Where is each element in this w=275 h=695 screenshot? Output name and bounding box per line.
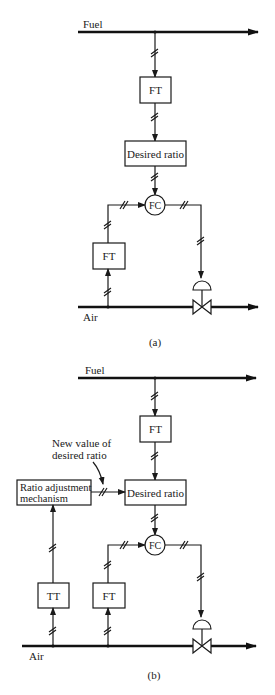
fuel-ft-label: FT [149,423,162,435]
fuel-ft-label: FT [149,84,162,96]
caption-b: (b) [148,669,161,682]
desired-ratio-label: Desired ratio [127,487,185,499]
signal-line [108,545,145,583]
air-tap-node [106,644,109,647]
annotation-line-1: New value of [52,437,112,449]
air-label: Air [29,650,44,662]
air-ft-label: FT [103,250,116,262]
fuel-label: Fuel [83,18,103,30]
ratio-adjustment-label-2: mechanism [20,493,68,504]
tt-label: TT [47,590,61,602]
annotation-pointer [93,462,103,484]
air-label: Air [83,311,98,323]
air-ft-label: FT [103,590,116,602]
annotation-line-2: desired ratio [52,449,107,461]
signal-line [165,545,201,617]
panel-a: Fuel FT Desired ratio FC FT [78,18,258,349]
control-valve-icon [193,620,211,653]
fc-label: FC [149,540,162,551]
air-tap-node [51,644,54,647]
fuel-label: Fuel [85,364,105,376]
fc-label: FC [149,200,162,211]
air-tap-node [106,305,109,308]
ratio-adjustment-label-1: Ratio adjustment [20,482,92,493]
signal-line [108,205,145,243]
desired-ratio-label: Desired ratio [127,148,185,160]
panel-b: Fuel FT New value of desired ratio Desir… [17,364,256,682]
ratio-control-diagram: Fuel FT Desired ratio FC FT [0,0,275,695]
control-valve-icon [193,281,211,314]
caption-a: (a) [149,336,162,349]
signal-line [165,205,201,278]
